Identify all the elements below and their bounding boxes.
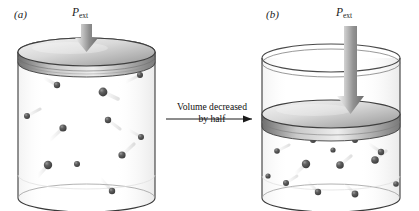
panel-label-a: (a) [14, 8, 27, 20]
pressure-symbol-a: P [72, 6, 79, 18]
pressure-label-b: Pext [336, 7, 352, 20]
panel-label-b: (b) [266, 8, 279, 20]
caption-line-1: Volume decreased [163, 101, 261, 113]
pressure-symbol-b: P [336, 6, 343, 18]
figure-canvas: (a) (b) Pext Pext Volume decreased by ha… [0, 0, 419, 211]
pressure-label-a: Pext [72, 7, 88, 20]
caption-line-2: by half [163, 113, 261, 125]
pressure-subscript-b: ext [343, 11, 352, 20]
pressure-subscript-a: ext [79, 11, 88, 20]
panel-b-piston[interactable] [262, 100, 400, 141]
transition-caption: Volume decreased by half [163, 101, 261, 125]
